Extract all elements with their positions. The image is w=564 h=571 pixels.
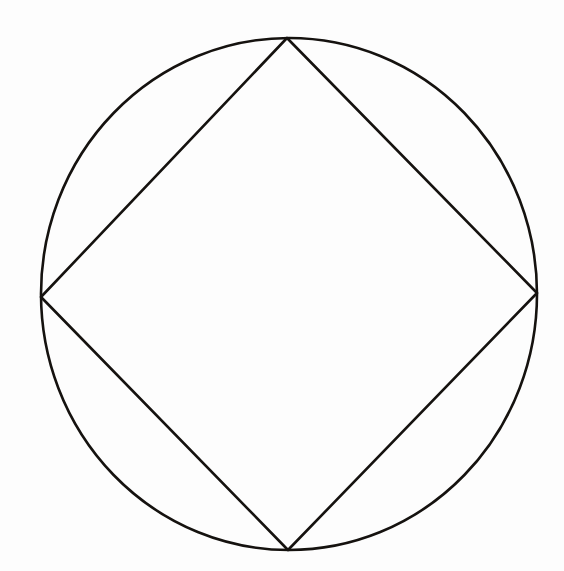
figure-canvas: Circle with inscribed square A black out… (0, 0, 564, 571)
square-edges-group (41, 38, 537, 550)
inscribed-square-shape (41, 38, 537, 550)
geometry-figure-svg: Circle with inscribed square A black out… (0, 0, 564, 571)
outer-circle-shape (41, 38, 537, 550)
